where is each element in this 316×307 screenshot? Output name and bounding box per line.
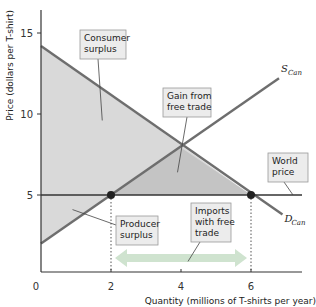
equilibrium-point [107,191,115,199]
imports-with-free-trade-text: with free [195,217,235,227]
x-tick-label: 2 [108,281,114,292]
y-axis-label: Price (dollars per T-shirt) [5,10,15,121]
world-price-leader-line [284,182,293,195]
x-tick-label: 4 [178,281,184,292]
x-axis-label: Quantity (millions of T-shirts per year) [145,296,316,306]
imports-double-arrow [115,249,247,267]
y-tick-label: 10 [20,109,33,120]
x-tick-label: 6 [248,281,254,292]
y-tick-label: 15 [20,28,33,39]
world-price-text: price [272,167,295,177]
producer-surplus-text: surplus [120,230,153,240]
equilibrium-point [247,191,255,199]
x-tick-label: 0 [33,281,39,292]
consumer-surplus-text: Consumer [84,33,130,43]
y-tick-label: 5 [27,190,33,201]
d-can-label-subscript: Can [292,219,307,227]
consumer-surplus-text: surplus [84,44,117,54]
s-can-label-subscript: Can [288,69,303,77]
producer-surplus-text: Producer [120,219,160,229]
gain-from-free-trade-text: Gain from [167,91,212,101]
imports-with-free-trade-text: trade [195,228,219,238]
imports-arrow [115,249,247,267]
chart: DCanSCan ConsumersurplusGain fromfree tr… [0,0,316,307]
s-can-label: S [281,63,288,74]
imports-with-free-trade-text: Imports [195,206,230,216]
gain-from-free-trade-text: free trade [167,102,212,112]
world-price-text: World [272,156,298,166]
